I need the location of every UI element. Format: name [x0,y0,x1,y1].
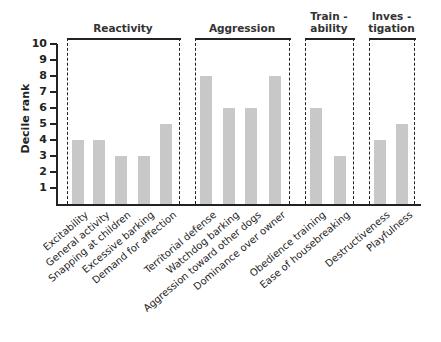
group-divider [353,38,354,204]
y-tick [50,91,57,93]
bar [396,124,408,204]
y-tick [50,59,57,61]
y-tick [50,43,57,45]
bar [223,108,235,204]
group-title-line: Aggression [185,22,299,34]
bar-chart: Decile rank 12345678910 ReactivityAggres… [0,0,441,342]
group-title: Inves -tigation [359,10,424,34]
bar [334,156,346,204]
group-title: Aggression [185,22,299,34]
y-tick-label: 1 [27,182,47,194]
y-tick [50,107,57,109]
group-divider [289,38,290,204]
y-axis [56,44,58,206]
group-bracket-investigation [369,38,416,40]
group-title-line: tigation [359,22,424,34]
bar [269,76,281,204]
y-tick-label: 6 [27,102,47,114]
bar [374,140,386,204]
y-tick-label: 3 [27,150,47,162]
y-tick [50,187,57,189]
group-title-line: Reactivity [57,22,189,34]
bar [245,108,257,204]
y-tick [50,123,57,125]
group-title: Train -ability [295,10,363,34]
bar [93,140,105,204]
x-axis [56,204,421,206]
group-bracket-trainability [305,38,355,40]
y-tick-label: 10 [27,38,47,50]
y-tick-label: 4 [27,134,47,146]
y-tick-label: 2 [27,166,47,178]
bar [200,76,212,204]
group-title-line: Train - [295,10,363,22]
bar [310,108,322,204]
y-tick [50,155,57,157]
group-bracket-aggression [195,38,291,40]
y-tick-label: 9 [27,54,47,66]
group-bracket-reactivity [67,38,181,40]
group-divider [67,38,68,204]
group-title-line: ability [295,22,363,34]
group-divider [414,38,415,204]
bar [160,124,172,204]
bar [72,140,84,204]
y-tick-label: 5 [27,118,47,130]
y-tick-label: 8 [27,70,47,82]
group-title-line: Inves - [359,10,424,22]
y-tick [50,75,57,77]
bar [115,156,127,204]
group-divider [369,38,370,204]
y-tick [50,139,57,141]
bar [138,156,150,204]
y-tick [50,171,57,173]
group-title: Reactivity [57,22,189,34]
y-tick-label: 7 [27,86,47,98]
group-divider [195,38,196,204]
group-divider [305,38,306,204]
group-divider [179,38,180,204]
